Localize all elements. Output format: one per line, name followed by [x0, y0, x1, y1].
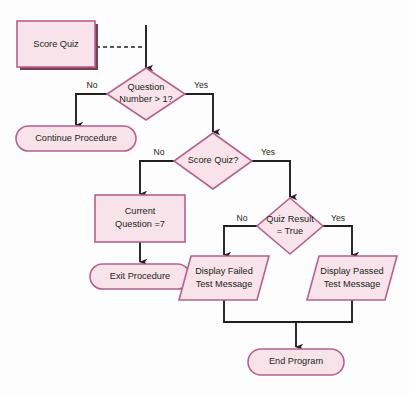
node-continue-procedure[interactable]: Continue Procedure [16, 126, 136, 151]
node-display-failed[interactable]: Display Failed Test Message [179, 256, 269, 300]
connector-display-passed-to-merge [296, 300, 352, 322]
display-passed-shape [307, 256, 397, 300]
current-question-label-1: Current [125, 206, 156, 216]
node-current-question[interactable]: Current Question =7 [95, 195, 185, 242]
edge-label-q2-no: No [154, 147, 165, 157]
question-number-check-label-2: Number > 1? [119, 94, 172, 104]
connector-q3-no-to-display-failed [224, 226, 258, 255]
quiz-result-check-label-2: = True [277, 226, 303, 236]
edge-label-q1-no: No [87, 80, 98, 90]
current-question-label-2: Question =7 [115, 219, 165, 229]
connector-q1-yes-to-score-quiz-check [185, 94, 213, 132]
connector-q1-no-to-continue-procedure [76, 94, 108, 125]
edge-label-q3-yes: Yes [331, 213, 345, 223]
node-question-number-check[interactable]: Question Number > 1? [107, 68, 185, 120]
display-passed-label-2: Test Message [324, 279, 381, 289]
flowchart-canvas: Score Quiz Question Number > 1? No Yes C… [0, 0, 409, 394]
display-failed-label-1: Display Failed [195, 266, 253, 276]
connector-q2-no-to-current-question [140, 161, 176, 194]
flowchart-svg: Score Quiz Question Number > 1? No Yes C… [0, 0, 409, 394]
continue-procedure-label: Continue Procedure [35, 133, 117, 143]
display-failed-label-2: Test Message [196, 279, 253, 289]
quiz-result-check-label-1: Quiz Result [266, 214, 314, 224]
connector-q3-yes-to-display-passed [322, 226, 352, 255]
node-exit-procedure[interactable]: Exit Procedure [90, 264, 190, 289]
exit-procedure-label: Exit Procedure [110, 271, 170, 281]
display-failed-shape [179, 256, 269, 300]
score-quiz-check-label: Score Quiz? [188, 155, 239, 165]
node-display-passed[interactable]: Display Passed Test Message [307, 256, 397, 300]
edge-label-q3-no: No [237, 213, 248, 223]
node-score-quiz-start[interactable]: Score Quiz [17, 21, 98, 70]
display-passed-label-1: Display Passed [320, 266, 383, 276]
question-number-check-label-1: Question [128, 82, 165, 92]
node-score-quiz-check[interactable]: Score Quiz? [174, 133, 252, 189]
node-quiz-result-check[interactable]: Quiz Result = True [257, 198, 323, 254]
edge-label-q2-yes: Yes [261, 147, 275, 157]
connector-display-failed-to-merge [224, 300, 296, 322]
node-end-program[interactable]: End Program [248, 349, 344, 375]
connector-q2-yes-to-quiz-result-check [251, 161, 290, 197]
edge-label-q1-yes: Yes [194, 80, 208, 90]
end-program-label: End Program [269, 356, 323, 366]
score-quiz-start-label: Score Quiz [33, 39, 79, 49]
